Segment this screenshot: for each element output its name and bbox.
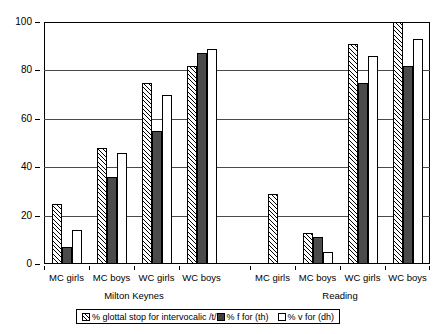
legend-label-glottal-stop: % glottal stop for intervocalic /t/ <box>92 312 217 322</box>
x-axis-tick-mark <box>340 266 341 270</box>
bar <box>152 131 162 264</box>
legend-label-v-for-dh: % v for (dh) <box>288 312 335 322</box>
bar <box>162 95 172 264</box>
region-block <box>250 22 430 264</box>
y-axis-tick-label: 20 <box>21 211 32 221</box>
y-axis-tick-label: 60 <box>21 114 32 124</box>
bar <box>142 83 152 265</box>
legend-label-f-for-th: % f for (th) <box>227 312 269 322</box>
plot-area <box>44 22 430 264</box>
block-gap <box>224 290 250 301</box>
bar <box>52 204 62 265</box>
legend-swatch-open-icon <box>278 313 286 321</box>
y-axis-tick-label: 0 <box>26 259 32 269</box>
x-axis-group-label: MC boys <box>295 272 340 283</box>
bar <box>313 237 323 264</box>
bar <box>187 66 197 264</box>
x-axis-tick-mark <box>134 266 135 270</box>
y-axis-tick-label: 100 <box>15 17 32 27</box>
bar <box>268 194 278 264</box>
y-axis-tick-mark <box>35 167 40 168</box>
bar <box>358 83 368 265</box>
region-block-labels: MC girlsMC boysWC girlsWC boys <box>250 272 430 283</box>
x-axis-group-label: MC boys <box>89 272 134 283</box>
legend-item-v-for-dh: % v for (dh) <box>278 312 335 322</box>
bar <box>117 153 127 264</box>
y-axis-tick-mark <box>35 22 40 23</box>
x-axis-tick-mark <box>295 266 296 270</box>
x-axis-tick-mark <box>179 266 180 270</box>
legend-item-f-for-th: % f for (th) <box>217 312 269 322</box>
bar <box>348 44 358 264</box>
y-axis-tick-mark <box>35 119 40 120</box>
x-axis-tick-mark <box>385 266 386 270</box>
x-axis-tick-mark <box>429 266 430 270</box>
bar-group <box>134 22 179 264</box>
bar <box>323 252 333 264</box>
bar <box>413 39 423 264</box>
x-axis-region-label: Reading <box>250 290 430 301</box>
x-axis-group-label: WC boys <box>385 272 430 283</box>
bar <box>303 233 313 264</box>
bar <box>62 247 72 264</box>
bar-groups <box>44 22 430 264</box>
bar-group <box>385 22 430 264</box>
legend-item-glottal-stop: % glottal stop for intervocalic /t/ <box>82 312 217 322</box>
bar-group <box>340 22 385 264</box>
x-axis-group-label: WC girls <box>134 272 179 283</box>
x-axis-region-label: Milton Keynes <box>44 290 224 301</box>
x-axis-group-label: WC boys <box>179 272 224 283</box>
x-axis-group-labels: MC girlsMC boysWC girlsWC boysMC girlsMC… <box>44 272 430 283</box>
bar <box>207 49 217 264</box>
bar-group <box>295 22 340 264</box>
y-axis-tick-mark <box>35 70 40 71</box>
x-axis-tick-mark <box>89 266 90 270</box>
bar <box>403 66 413 264</box>
bar <box>97 148 107 264</box>
bar-group <box>179 22 224 264</box>
grouped-bar-chart: 020406080100 MC girlsMC boysWC girlsWC b… <box>0 0 441 334</box>
x-axis-tick-mark <box>44 266 45 270</box>
bar-group <box>250 22 295 264</box>
bar <box>72 230 82 264</box>
bar <box>368 56 378 264</box>
block-gap <box>224 272 250 283</box>
legend-swatch-solid-icon <box>217 313 225 321</box>
x-axis-tick-mark <box>250 266 251 270</box>
bar-group <box>44 22 89 264</box>
x-axis-group-label: MC girls <box>44 272 89 283</box>
y-axis-tick-mark <box>35 216 40 217</box>
x-axis-group-label: MC girls <box>250 272 295 283</box>
y-axis-tick-mark <box>35 264 40 265</box>
block-gap <box>224 22 250 264</box>
region-block <box>44 22 224 264</box>
y-axis: 020406080100 <box>0 22 40 264</box>
y-axis-tick-label: 40 <box>21 162 32 172</box>
x-axis-region-labels: Milton KeynesReading <box>44 290 430 301</box>
bar <box>107 177 117 264</box>
region-block-labels: MC girlsMC boysWC girlsWC boys <box>44 272 224 283</box>
y-axis-tick-label: 80 <box>21 65 32 75</box>
bar <box>393 22 403 264</box>
bar-group <box>89 22 134 264</box>
legend-swatch-hatched-icon <box>82 313 90 321</box>
bar <box>197 53 207 264</box>
x-axis-group-label: WC girls <box>340 272 385 283</box>
chart-legend: % glottal stop for intervocalic /t/ % f … <box>76 309 340 324</box>
